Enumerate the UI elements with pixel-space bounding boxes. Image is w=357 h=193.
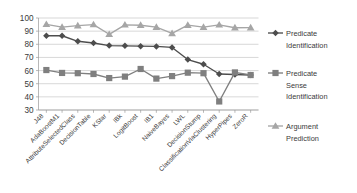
data-point <box>232 69 238 75</box>
chart-container: 30405060708090100 J48AdaBoostM1Attribute… <box>0 0 357 193</box>
data-point <box>106 75 112 81</box>
data-point <box>138 66 144 72</box>
data-point <box>169 73 175 79</box>
data-point <box>42 20 50 27</box>
data-point <box>200 70 206 76</box>
data-point <box>216 98 222 104</box>
data-point <box>137 43 144 50</box>
y-tick-label: 30 <box>24 106 34 115</box>
data-point <box>184 21 192 28</box>
legend-item-argument-prediction[interactable]: ArgumentPrediction <box>268 122 319 143</box>
chart-legend: PredicateIdentificationPredicateSenseIde… <box>268 29 328 143</box>
data-point <box>90 71 96 77</box>
legend-item-predicate-sense-identification[interactable]: PredicateSenseIdentification <box>268 69 328 101</box>
data-series-layer <box>42 20 254 104</box>
data-point <box>248 72 254 78</box>
data-point <box>153 75 159 81</box>
legend-label: Sense <box>286 81 307 90</box>
x-tick-label: IB1 <box>143 112 155 124</box>
gridlines <box>36 18 259 110</box>
data-point <box>75 38 82 45</box>
y-axis-tick-labels: 30405060708090100 <box>20 14 34 115</box>
data-point <box>75 70 81 76</box>
legend-label: Predicate <box>286 29 317 38</box>
y-tick-label: 100 <box>20 14 34 23</box>
data-point <box>216 71 223 78</box>
series-argument-prediction <box>42 20 254 37</box>
x-tick-label: KStar <box>91 112 108 129</box>
data-point <box>215 21 223 28</box>
x-tick-label: ZeroR <box>231 112 249 130</box>
data-point <box>59 32 65 39</box>
x-axis <box>39 18 259 113</box>
data-point <box>43 32 50 39</box>
legend-marker-diamond-icon <box>272 30 279 37</box>
data-point <box>122 74 128 80</box>
data-point <box>90 40 97 47</box>
data-point <box>59 70 65 76</box>
legend-label: Predicate <box>286 69 317 78</box>
legend-label: Argument <box>286 122 318 131</box>
y-tick-label: 60 <box>24 67 34 76</box>
y-tick-label: 80 <box>24 40 34 49</box>
data-point <box>122 43 129 50</box>
data-point <box>43 67 49 73</box>
x-tick-label: J48 <box>32 112 45 125</box>
y-tick-label: 90 <box>24 27 34 36</box>
x-tick-label: IBk <box>111 112 123 124</box>
data-point <box>90 21 98 28</box>
series-predicate-sense-identification <box>43 66 253 105</box>
y-tick-label: 50 <box>24 80 34 89</box>
data-point <box>200 61 207 68</box>
legend-label: Identification <box>286 92 328 101</box>
data-point <box>185 70 191 76</box>
legend-label: Identification <box>286 41 328 50</box>
x-axis-tick-labels: J48AdaBoostM1AttributeSelectedClassDecis… <box>24 112 249 173</box>
legend-label: Prediction <box>286 134 319 143</box>
y-tick-label: 70 <box>24 53 34 62</box>
legend-marker-square-icon <box>272 70 278 76</box>
y-tick-label: 40 <box>24 93 34 102</box>
line-chart: 30405060708090100 J48AdaBoostM1Attribute… <box>0 0 357 193</box>
legend-item-predicate-identification[interactable]: PredicateIdentification <box>268 29 328 50</box>
data-point <box>106 42 113 49</box>
